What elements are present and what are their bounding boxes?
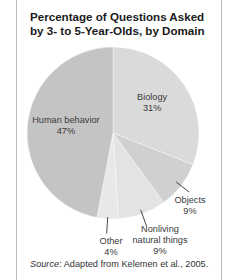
slice-label-objects: Objects9%: [174, 195, 206, 216]
slice-label-other: Other4%: [100, 236, 123, 257]
leader-line-other: [107, 217, 108, 233]
slice-label-nonliving-natural-things: Nonlivingnatural things9%: [132, 224, 188, 256]
source-note: Source: Adapted from Kelemen et al., 200…: [30, 259, 208, 269]
pie-chart: Biology31%Objects9%Nonlivingnatural thin…: [0, 0, 233, 280]
source-text: : Adapted from Kelemen et al., 2005.: [59, 259, 208, 269]
source-prefix: Source: [30, 259, 59, 269]
